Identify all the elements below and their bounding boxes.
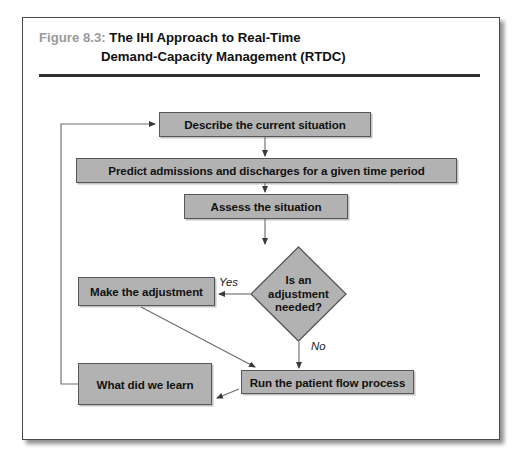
edge-make-adjustment-to-run-flow [141, 307, 255, 367]
diamond-shape-icon [250, 246, 347, 342]
flow-node-predict[interactable]: Predict admissions and discharges for a … [76, 158, 457, 183]
flow-node-describe[interactable]: Describe the current situation [159, 112, 371, 137]
flowchart-canvas: Describe the current situation Predict a… [23, 18, 501, 441]
figure-container: Figure 8.3: The IHI Approach to Real-Tim… [0, 0, 522, 461]
flow-node-make-adjustment[interactable]: Make the adjustment [78, 277, 215, 306]
edge-label-yes: Yes [219, 276, 238, 288]
edge-label-no: No [311, 340, 326, 352]
edge-run-flow-to-what-learn [217, 389, 239, 398]
figure-frame: Figure 8.3: The IHI Approach to Real-Tim… [22, 17, 500, 440]
flow-node-what-did-we-learn[interactable]: What did we learn [78, 363, 212, 405]
flow-node-run-patient-flow-process[interactable]: Run the patient flow process [241, 370, 414, 394]
flow-node-decision[interactable]: Is an adjustment needed? [250, 246, 347, 342]
flow-node-assess[interactable]: Assess the situation [184, 194, 348, 219]
